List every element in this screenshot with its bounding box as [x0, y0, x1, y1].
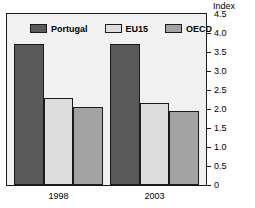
bar-oecd-1998 — [73, 107, 103, 185]
y-tick-label-0: 0 — [214, 181, 219, 190]
y-tick-label-1.5: 1.5 — [214, 124, 227, 133]
bar-portugal-2003 — [110, 44, 140, 185]
y-tick-2.0 — [207, 109, 211, 110]
bar-eu15-2003 — [140, 103, 170, 185]
y-tick-3.5 — [207, 52, 211, 53]
legend-label-eu15: EU15 — [126, 24, 149, 34]
legend-item-portugal: Portugal — [30, 22, 88, 35]
y-tick-label-4.5: 4.5 — [214, 10, 227, 19]
y-tick-1.0 — [207, 147, 211, 148]
y-tick-label-3.0: 3.0 — [214, 67, 227, 76]
y-tick-label-4.0: 4.0 — [214, 29, 227, 38]
bar-oecd-2003 — [169, 111, 199, 185]
y-tick-2.5 — [207, 90, 211, 91]
bar-chart: Index PortugalEU15OECD 4.54.03.53.02.52.… — [0, 0, 255, 208]
legend-label-oecd: OECD — [186, 24, 212, 34]
legend-swatch-oecd — [165, 24, 182, 33]
bar-eu15-1998 — [44, 98, 74, 185]
x-tick-label-2003: 2003 — [110, 191, 199, 201]
y-tick-label-3.5: 3.5 — [214, 48, 227, 57]
legend-swatch-eu15 — [105, 24, 122, 33]
y-tick-3.0 — [207, 71, 211, 72]
y-tick-0 — [207, 185, 211, 186]
legend-label-portugal: Portugal — [51, 24, 88, 34]
y-tick-0.5 — [207, 166, 211, 167]
chart-legend: PortugalEU15OECD — [30, 22, 212, 35]
bar-portugal-1998 — [14, 44, 44, 185]
x-tick-label-1998: 1998 — [14, 191, 103, 201]
bars-layer — [7, 14, 206, 185]
y-tick-1.5 — [207, 128, 211, 129]
legend-swatch-portugal — [30, 24, 47, 33]
y-tick-label-2.5: 2.5 — [214, 86, 227, 95]
y-tick-label-2.0: 2.0 — [214, 105, 227, 114]
plot-area — [6, 13, 207, 186]
y-tick-label-0.5: 0.5 — [214, 162, 227, 171]
legend-item-eu15: EU15 — [105, 22, 149, 35]
legend-item-oecd: OECD — [165, 22, 212, 35]
y-tick-label-1.0: 1.0 — [214, 143, 227, 152]
